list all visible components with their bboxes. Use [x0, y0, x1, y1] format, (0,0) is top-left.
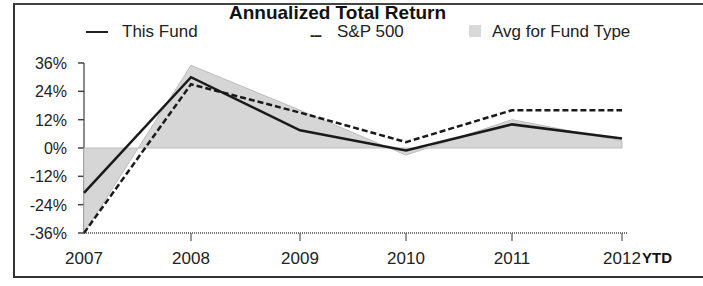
x-axis: 200720082009201020112012 — [65, 233, 641, 268]
y-tick-label: -12% — [30, 168, 67, 185]
y-axis: 36%24%12%0%-12%-24%-36% — [30, 55, 84, 242]
x-tick-label: 2009 — [281, 249, 319, 268]
ytd-label: YTD — [642, 249, 672, 266]
y-tick-label: 0% — [44, 140, 67, 157]
y-tick-label: 24% — [35, 83, 67, 100]
x-tick-label: 2007 — [65, 249, 103, 268]
y-tick-label: -24% — [30, 197, 67, 214]
x-tick-label: 2008 — [172, 249, 210, 268]
y-tick-label: 12% — [35, 112, 67, 129]
x-tick-label: 2010 — [387, 249, 425, 268]
y-tick-label: -36% — [30, 225, 67, 242]
series-avg-area — [84, 65, 622, 233]
x-tick-label: 2011 — [494, 249, 531, 268]
y-tick-label: 36% — [35, 55, 67, 72]
x-tick-label: 2012 — [603, 249, 641, 268]
